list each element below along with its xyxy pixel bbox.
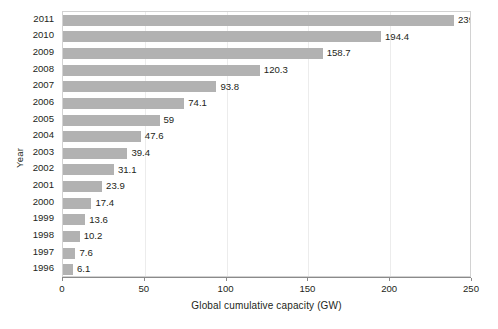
bar — [63, 98, 184, 109]
bar — [63, 198, 91, 209]
bar-value-label: 239.0 — [458, 14, 471, 26]
y-axis-tick-label: 1998 — [0, 230, 54, 240]
x-axis-tick-mark — [62, 278, 63, 281]
bar-row: 7.6 — [63, 245, 471, 262]
bar-value-label: 120.3 — [264, 64, 288, 76]
plot-area: 239.0194.4158.7120.393.874.15947.639.431… — [62, 11, 471, 277]
bar — [63, 264, 73, 275]
x-axis-tick-mark — [471, 278, 472, 281]
bar — [63, 214, 85, 225]
bar-value-label: 31.1 — [118, 164, 137, 176]
bar-value-label: 10.2 — [84, 230, 103, 242]
y-axis-tick-labels: 2011201020092008200720062005200420032002… — [0, 11, 57, 277]
bar-row: 74.1 — [63, 95, 471, 112]
y-axis-tick-label: 2003 — [0, 147, 54, 157]
bar-row: 6.1 — [63, 261, 471, 277]
bar-value-label: 93.8 — [220, 81, 239, 93]
y-axis-tick-label: 1996 — [0, 263, 54, 273]
y-axis-tick-label: 2009 — [0, 47, 54, 57]
bar — [63, 31, 381, 42]
bar-row: 13.6 — [63, 212, 471, 229]
x-axis-tick-label: 0 — [32, 283, 92, 294]
bar-value-label: 6.1 — [77, 263, 90, 275]
bar-row: 10.2 — [63, 228, 471, 245]
bar-value-label: 23.9 — [106, 180, 125, 192]
y-axis-tick-label: 2008 — [0, 64, 54, 74]
bar-row: 17.4 — [63, 195, 471, 212]
bar — [63, 148, 127, 159]
y-axis-tick-label: 1997 — [0, 247, 54, 257]
bar-row: 239.0 — [63, 12, 471, 29]
x-axis-tick-label: 250 — [441, 283, 498, 294]
bar — [63, 231, 80, 242]
bar — [63, 164, 114, 175]
bar-row: 23.9 — [63, 178, 471, 195]
x-axis-tick-label: 200 — [359, 283, 419, 294]
bar-value-label: 74.1 — [188, 97, 207, 109]
bar-row: 39.4 — [63, 145, 471, 162]
bar-chart: Year 20112010200920082007200620052004200… — [0, 0, 498, 329]
bar-row: 31.1 — [63, 162, 471, 179]
bar-value-label: 13.6 — [89, 214, 108, 226]
bar-row: 93.8 — [63, 79, 471, 96]
bar — [63, 15, 454, 26]
bar-value-label: 17.4 — [95, 197, 114, 209]
bar — [63, 48, 323, 59]
x-axis-tick-label: 50 — [114, 283, 174, 294]
bar-value-label: 158.7 — [327, 47, 351, 59]
bar-row: 158.7 — [63, 45, 471, 62]
x-axis-ticks: 050100150200250 — [0, 278, 498, 298]
bar-row: 59 — [63, 112, 471, 129]
x-axis-tick-label: 100 — [196, 283, 256, 294]
bar — [63, 131, 141, 142]
x-axis-tick-mark — [144, 278, 145, 281]
y-axis-tick-label: 2000 — [0, 197, 54, 207]
bar — [63, 115, 160, 126]
y-axis-tick-label: 2011 — [0, 14, 54, 24]
bar-row: 47.6 — [63, 128, 471, 145]
bar-value-label: 194.4 — [385, 31, 409, 43]
y-axis-tick-label: 2001 — [0, 180, 54, 190]
y-axis-tick-label: 2010 — [0, 30, 54, 40]
bar-row: 194.4 — [63, 29, 471, 46]
x-axis-title: Global cumulative capacity (GW) — [62, 300, 471, 311]
bar-value-label: 59 — [164, 114, 175, 126]
y-axis-tick-label: 2006 — [0, 97, 54, 107]
bar — [63, 248, 75, 259]
x-axis-tick-mark — [307, 278, 308, 281]
bar — [63, 181, 102, 192]
x-axis-tick-label: 150 — [277, 283, 337, 294]
bar-value-label: 39.4 — [131, 147, 150, 159]
x-axis-tick-mark — [226, 278, 227, 281]
bar-value-label: 47.6 — [145, 130, 164, 142]
y-axis-tick-label: 2005 — [0, 114, 54, 124]
y-axis-tick-label: 2007 — [0, 80, 54, 90]
y-axis-tick-label: 1999 — [0, 213, 54, 223]
bar — [63, 81, 216, 92]
x-axis-tick-mark — [389, 278, 390, 281]
y-axis-tick-label: 2004 — [0, 130, 54, 140]
bar — [63, 65, 260, 76]
bar-value-label: 7.6 — [79, 247, 92, 259]
bar-row: 120.3 — [63, 62, 471, 79]
y-axis-tick-label: 2002 — [0, 163, 54, 173]
